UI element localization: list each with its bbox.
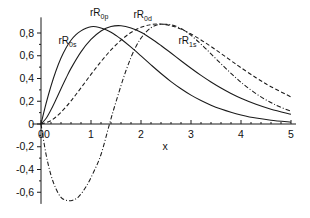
curve-label-rR1s: rR1s [179,35,197,48]
curve-label-rR0p: rR0p [90,7,108,21]
y-tick-label: 0,6 [19,49,34,61]
curve-label-base: rR [179,35,190,46]
curve-rR0d [41,24,291,124]
curve-label-rR0d: rR0d [134,9,152,22]
x-tick-label: 5 [288,128,294,140]
origin-zero-label: 0 [44,128,50,140]
y-tick-label: -0,4 [16,163,34,175]
curve-label-subscript: 0s [69,41,77,48]
x-tick-label: 3 [188,128,194,140]
curve-rR1s [41,24,291,201]
chart-container: 0123450,80,60,40,20-0,2-0,4-0,60x rR0srR… [0,0,310,218]
y-tick-label: -0,6 [16,186,34,198]
y-tick-label: -0,2 [16,140,34,152]
curve-label-subscript: 0d [144,15,152,22]
curve-label-subscript: 0p [101,13,109,21]
curves-group [41,24,291,201]
x-tick-label: 1 [88,128,94,140]
curve-label-base: rR [59,35,70,46]
x-axis-label: x [162,140,168,152]
y-tick-label: 0,8 [19,27,34,39]
y-tick-label: 0,2 [19,95,34,107]
radial-wavefunction-plot: 0123450,80,60,40,20-0,2-0,4-0,60x rR0srR… [0,0,310,218]
y-tick-label: 0,4 [19,72,34,84]
x-tick-label: 2 [138,128,144,140]
curve-rR0p [41,26,291,124]
curve-labels-group: rR0srR0prR0drR1s [59,7,197,48]
y-tick-label: 0 [28,118,34,130]
curve-rR0s [41,27,291,124]
curve-label-base: rR [134,9,145,20]
x-tick-label: 4 [238,128,244,140]
curve-label-subscript: 1s [189,41,197,48]
curve-label-base: rR [90,7,101,18]
